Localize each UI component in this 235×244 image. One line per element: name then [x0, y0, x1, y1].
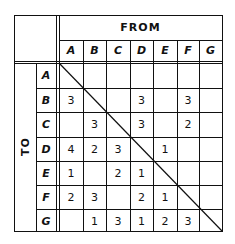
matrix-cell: 1: [130, 168, 153, 179]
column-header: E: [153, 45, 177, 56]
column-header: D: [130, 45, 153, 56]
row-header: G: [36, 216, 56, 227]
row-header: F: [36, 192, 56, 203]
matrix-cell: 1: [130, 216, 153, 227]
row-header: B: [36, 95, 56, 106]
matrix-cell: 3: [106, 216, 130, 227]
matrix-cell: 1: [59, 168, 83, 179]
matrix-cell: 2: [130, 192, 153, 203]
matrix-cell: 3: [83, 119, 106, 130]
matrix-cell: 1: [83, 216, 106, 227]
matrix-cell: 1: [153, 192, 177, 203]
matrix-cell: 2: [106, 168, 130, 179]
matrix-cell: 3: [130, 119, 153, 130]
matrix-cell: 3: [106, 144, 130, 155]
to-label: TO: [20, 128, 31, 166]
column-header: C: [106, 45, 130, 56]
column-header: G: [199, 45, 222, 56]
matrix-cell: 2: [153, 216, 177, 227]
row-header: D: [36, 144, 56, 155]
matrix-cell: 2: [177, 119, 199, 130]
matrix-cell: 3: [130, 95, 153, 106]
from-label: FROM: [59, 22, 222, 33]
row-header: C: [36, 119, 56, 130]
matrix-cell: 3: [177, 216, 199, 227]
matrix-cell: 2: [59, 192, 83, 203]
matrix-cell: 3: [177, 95, 199, 106]
column-header: B: [83, 45, 106, 56]
matrix-cell: 4: [59, 144, 83, 155]
matrix-cell: 3: [59, 95, 83, 106]
column-header: A: [59, 45, 83, 56]
matrix-cell: 2: [83, 144, 106, 155]
row-header: E: [36, 168, 56, 179]
matrix-cell: 1: [153, 144, 177, 155]
matrix-cell: 3: [83, 192, 106, 203]
column-header: F: [177, 45, 199, 56]
row-header: A: [36, 70, 56, 81]
